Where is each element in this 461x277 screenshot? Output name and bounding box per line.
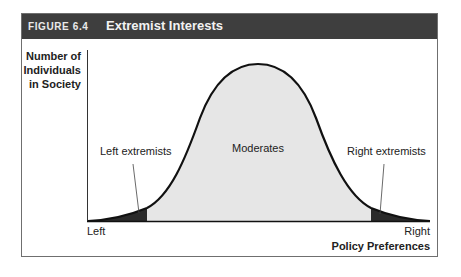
right-extremists-region (371, 208, 430, 221)
bell-curve-chart: Number of Individuals in Society Left ex… (0, 0, 461, 277)
right-extremists-label: Right extremists (347, 145, 426, 157)
moderates-label: Moderates (232, 142, 284, 154)
y-axis-label-line1: Number of (26, 50, 81, 62)
y-axis-label-line2: Individuals (24, 64, 81, 76)
x-axis-title: Policy Preferences (332, 240, 430, 252)
x-tick-right: Right (404, 225, 430, 237)
left-extremists-region (88, 208, 147, 221)
left-extremists-label: Left extremists (100, 145, 172, 157)
x-tick-left: Left (87, 225, 105, 237)
right-extremists-leader (380, 164, 384, 214)
left-extremists-leader (133, 164, 139, 213)
y-axis-label-line3: in Society (29, 78, 82, 90)
